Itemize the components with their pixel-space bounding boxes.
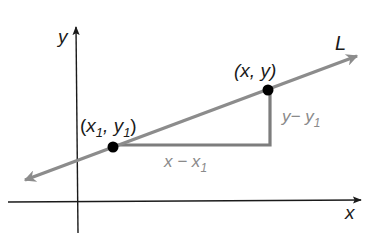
point-x-y-label: (x, y)	[234, 60, 276, 81]
point-x-y	[263, 85, 274, 96]
horizontal-leg-label: x − x1	[163, 152, 207, 175]
point-x1-y1	[108, 142, 119, 153]
point-x1-y1-label: (x1, y1)	[80, 115, 137, 140]
x-axis-label: x	[344, 202, 356, 223]
vertical-leg-label: y− y1	[281, 107, 320, 130]
line-label: L	[335, 32, 346, 54]
y-axis-label: y	[56, 26, 69, 47]
x-axis	[8, 200, 361, 202]
diagram-canvas: x y L (x1, y1) (x, y) x − x1 y− y1	[0, 0, 381, 233]
